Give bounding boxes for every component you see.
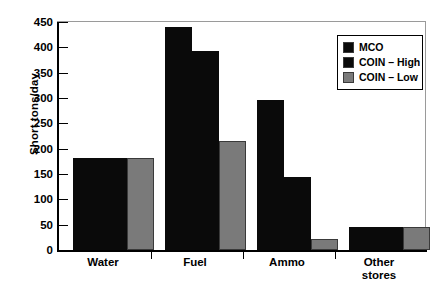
- y-tick-label: 200: [11, 142, 53, 154]
- y-tick-mark: [59, 199, 68, 200]
- y-tick-label: 250: [11, 117, 53, 129]
- legend-label-coin-low: COIN – Low: [359, 72, 418, 83]
- legend-item-coin-high: COIN – High: [343, 55, 417, 70]
- bar: [219, 141, 246, 250]
- legend-swatch-coin-low: [343, 72, 354, 83]
- y-tick-mark: [59, 174, 68, 175]
- y-tick-label: 450: [11, 16, 53, 28]
- bar: [311, 239, 338, 250]
- y-tick-label: 0: [11, 244, 53, 256]
- bar: [127, 158, 154, 250]
- legend-label-mco: MCO: [359, 42, 384, 53]
- y-tick-label: 150: [11, 168, 53, 180]
- y-tick-mark: [59, 47, 68, 48]
- x-category-label: Ammo: [241, 256, 333, 269]
- y-tick-label: 50: [11, 218, 53, 230]
- bar: [284, 177, 311, 250]
- legend-label-coin-high: COIN – High: [359, 57, 420, 68]
- y-tick-mark: [59, 225, 68, 226]
- legend-item-mco: MCO: [343, 40, 417, 55]
- bar-chart: Short tons/day 0501001502002503003504004…: [0, 0, 434, 286]
- bar: [100, 158, 127, 250]
- bar: [376, 227, 403, 250]
- y-tick-label: 350: [11, 66, 53, 78]
- y-tick-label: 400: [11, 41, 53, 53]
- bar: [403, 227, 430, 250]
- y-tick-mark: [59, 98, 68, 99]
- y-tick-mark: [59, 22, 68, 23]
- y-tick-label: 300: [11, 92, 53, 104]
- bar: [192, 51, 219, 250]
- bar: [257, 100, 284, 250]
- y-tick-mark: [59, 123, 68, 124]
- legend-swatch-mco: [343, 42, 354, 53]
- bar: [165, 27, 192, 250]
- x-category-label: Water: [57, 256, 149, 269]
- chart-legend: MCO COIN – High COIN – Low: [337, 35, 423, 90]
- legend-item-coin-low: COIN – Low: [343, 70, 417, 85]
- bar: [349, 227, 376, 250]
- y-tick-label: 100: [11, 193, 53, 205]
- bar: [73, 158, 100, 250]
- x-category-label: Other stores: [333, 256, 425, 282]
- y-tick-mark: [59, 73, 68, 74]
- y-tick-mark: [59, 250, 68, 251]
- x-category-label: Fuel: [149, 256, 241, 269]
- legend-swatch-coin-high: [343, 57, 354, 68]
- y-tick-mark: [59, 149, 68, 150]
